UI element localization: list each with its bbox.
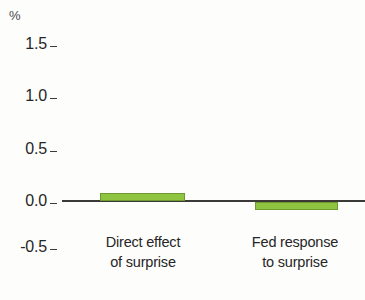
bar-chart-figure: % 1.5 1.0 0.5 0.0 -0.5 (0, 0, 365, 300)
x-axis-label-line-2: of surprise (72, 252, 214, 272)
y-axis: 1.5 1.0 0.5 0.0 -0.5 (0, 0, 62, 300)
tick-mark-icon (50, 151, 57, 153)
y-axis-tick-0-5: 0.5 (0, 141, 62, 157)
y-axis-tick-label: 0.5 (25, 141, 47, 157)
x-axis-label-line-1: Fed response (225, 232, 365, 252)
x-axis-label-line-2: to surprise (225, 252, 365, 272)
y-axis-tick-1-0: 1.0 (0, 88, 62, 104)
x-axis-label-fed-response-to-surprise: Fed response to surprise (225, 232, 365, 272)
y-axis-tick-label: -0.5 (20, 239, 47, 255)
y-axis-tick-label: 0.0 (25, 193, 47, 209)
x-axis-category-labels: Direct effect of surprise Fed response t… (62, 0, 365, 300)
x-axis-label-line-1: Direct effect (72, 232, 214, 252)
tick-mark-icon (50, 46, 57, 48)
y-axis-tick-label: 1.0 (25, 88, 47, 104)
y-axis-tick-neg-0-5: -0.5 (0, 239, 62, 255)
x-axis-label-direct-effect-of-surprise: Direct effect of surprise (72, 232, 214, 272)
tick-mark-icon (50, 98, 57, 100)
tick-mark-icon (50, 203, 57, 205)
y-axis-tick-0-0: 0.0 (0, 193, 62, 209)
tick-mark-icon (50, 249, 57, 251)
y-axis-tick-label: 1.5 (25, 36, 47, 52)
y-axis-tick-1-5: 1.5 (0, 36, 62, 52)
